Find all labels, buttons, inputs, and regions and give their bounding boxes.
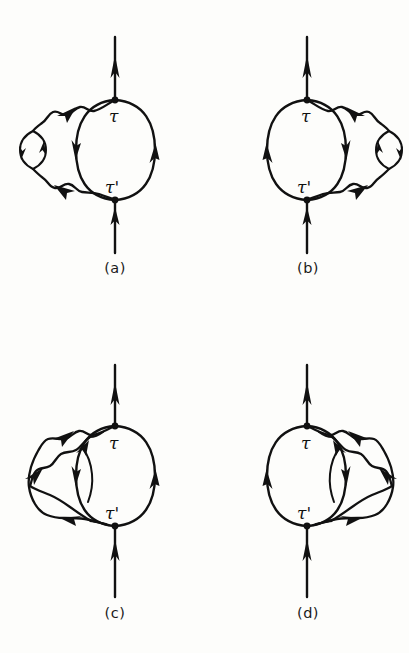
photon-wavy-inner-d: [332, 437, 397, 486]
vertex-dot-top-c: [112, 423, 119, 430]
external-line-top-a: [111, 37, 120, 100]
self-energy-bubble-b: [376, 131, 403, 169]
vertex-label-tau-d: τ: [301, 433, 311, 453]
vertex-dot-bottom-b: [304, 197, 311, 204]
external-line-bottom-a: [111, 200, 120, 253]
diagram-panel-c: τ τ' (c): [0, 327, 204, 653]
vertex-dot-bottom-a: [112, 197, 119, 204]
diagram-panel-d: τ τ' (d): [205, 327, 409, 653]
diagram-panel-a: τ τ' (a): [0, 0, 204, 326]
vertex-dot-top-a: [112, 97, 119, 104]
external-line-top-b: [303, 37, 312, 100]
photon-wavy-lower-b: [309, 169, 389, 200]
caption-b: (b): [278, 260, 338, 276]
vertex-label-tau-prime-c: τ': [105, 503, 119, 523]
vertex-label-tau-prime-b: τ': [297, 177, 311, 197]
caption-a: (a): [85, 260, 145, 276]
vertex-label-tau-b: τ: [301, 106, 311, 126]
vertex-dot-top-d: [304, 423, 311, 430]
self-energy-bubble-a: [19, 131, 46, 169]
vertex-dot-bottom-d: [304, 523, 311, 530]
vertex-label-tau-prime-d: τ': [297, 503, 311, 523]
vertex-label-tau-c: τ: [109, 433, 119, 453]
external-line-top-c: [111, 365, 120, 426]
photon-vertical-link-d: [330, 449, 339, 502]
vertex-dot-bottom-c: [112, 523, 119, 530]
vertex-label-tau-prime-a: τ': [105, 177, 119, 197]
figure-canvas: τ τ' (a): [0, 0, 409, 653]
photon-wavy-upper-b: [309, 101, 389, 131]
external-line-top-d: [303, 365, 312, 426]
vertex-dot-top-b: [304, 97, 311, 104]
photon-wavy-outer-d: [309, 427, 393, 526]
external-line-bottom-d: [303, 526, 312, 597]
external-line-bottom-b: [303, 200, 312, 253]
caption-d: (d): [278, 605, 338, 621]
photon-wavy-upper-a: [33, 101, 113, 131]
photon-wavy-lower-a: [33, 169, 113, 200]
photon-wavy-outer-c: [29, 427, 113, 526]
photon-wavy-inner-c: [25, 437, 90, 486]
diagram-panel-b: τ τ' (b): [205, 0, 409, 326]
external-line-bottom-c: [111, 526, 120, 597]
caption-c: (c): [85, 605, 145, 621]
photon-vertical-link-c: [83, 449, 92, 502]
vertex-label-tau-a: τ: [109, 106, 119, 126]
